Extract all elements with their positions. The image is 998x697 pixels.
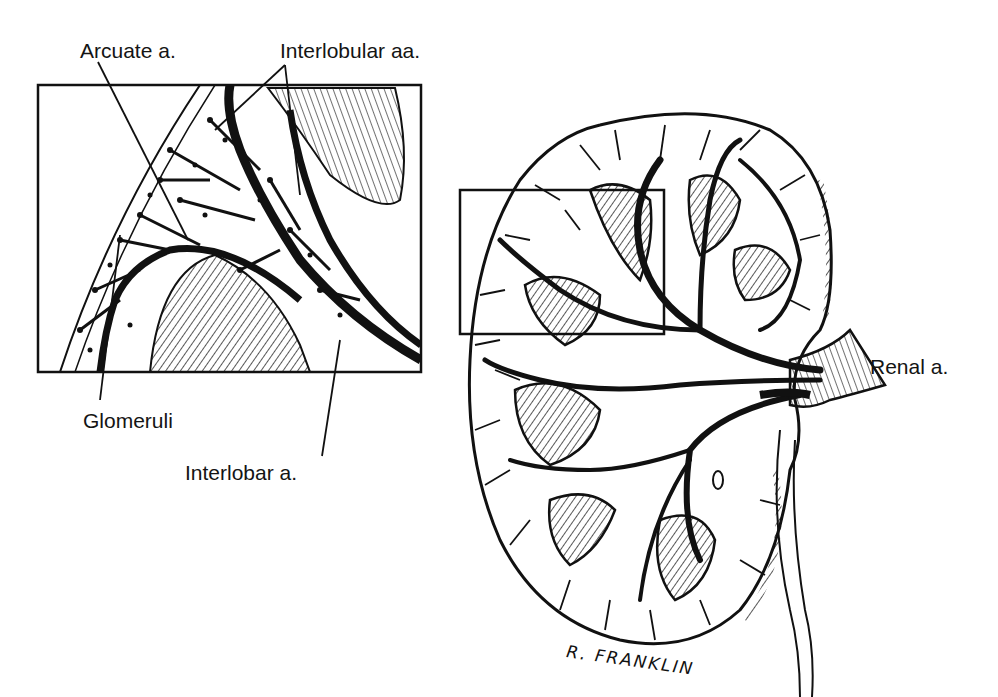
inset-magnified-cortex xyxy=(38,85,421,372)
label-interlobar-artery: Interlobar a. xyxy=(185,462,297,483)
label-interlobular-arteries: Interlobular aa. xyxy=(280,40,420,61)
label-arcuate-artery: Arcuate a. xyxy=(80,40,176,61)
medullary-pyramid-upper xyxy=(268,88,404,204)
kidney-illustration xyxy=(469,114,885,697)
diagram-canvas xyxy=(0,0,998,697)
medullary-pyramid-lower xyxy=(150,255,310,372)
label-glomeruli: Glomeruli xyxy=(83,410,173,431)
label-renal-artery: Renal a. xyxy=(870,356,948,377)
